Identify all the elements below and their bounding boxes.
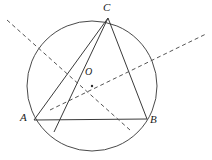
geometry-canvas xyxy=(0,0,212,160)
center-point-marker-o xyxy=(91,85,93,87)
vertex-label-a: A xyxy=(20,112,27,123)
center-label-o: O xyxy=(85,67,92,77)
vertex-label-c: C xyxy=(103,2,110,13)
dashed-construction-line-2 xyxy=(50,34,206,110)
triangle-side-ca xyxy=(34,18,108,120)
cevian-segment-cd xyxy=(54,18,108,132)
triangle-side-bc xyxy=(108,18,147,119)
vertex-label-b: B xyxy=(150,114,157,125)
triangle-side-ab xyxy=(34,119,147,120)
geometry-figure: A B C O xyxy=(0,0,212,160)
